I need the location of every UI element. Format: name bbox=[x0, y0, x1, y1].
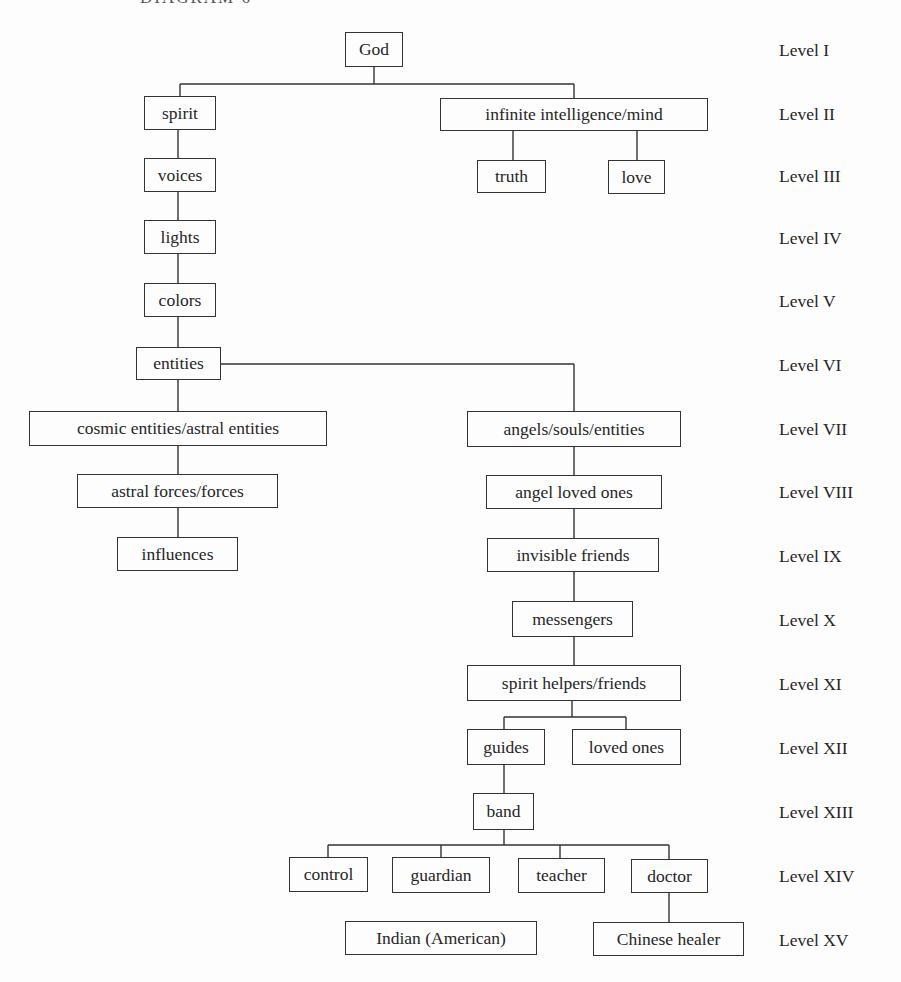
node-angels-souls: angels/souls/entities bbox=[467, 411, 681, 447]
level-label-7: Level VII bbox=[779, 419, 847, 440]
node-chinese-healer: Chinese healer bbox=[593, 922, 744, 956]
node-colors: colors bbox=[144, 283, 216, 317]
node-infinite-intelligence: infinite intelligence/mind bbox=[440, 98, 708, 131]
node-truth: truth bbox=[477, 160, 546, 193]
node-indian-american: Indian (American) bbox=[345, 921, 537, 955]
node-guides: guides bbox=[467, 729, 545, 765]
node-god: God bbox=[345, 32, 403, 67]
node-angel-loved-ones: angel loved ones bbox=[486, 475, 662, 509]
node-lights: lights bbox=[144, 220, 216, 254]
level-label-15: Level XV bbox=[779, 930, 849, 951]
node-loved-ones: loved ones bbox=[572, 729, 681, 765]
node-guardian: guardian bbox=[392, 857, 490, 893]
level-label-6: Level VI bbox=[779, 355, 841, 376]
level-label-3: Level III bbox=[779, 166, 841, 187]
node-love: love bbox=[608, 160, 665, 194]
node-astral-forces: astral forces/forces bbox=[77, 474, 278, 508]
level-label-13: Level XIII bbox=[779, 802, 853, 823]
level-label-10: Level X bbox=[779, 610, 836, 631]
level-label-9: Level IX bbox=[779, 546, 842, 567]
node-spirit-helpers: spirit helpers/friends bbox=[467, 665, 681, 701]
node-messengers: messengers bbox=[512, 601, 633, 637]
level-label-2: Level II bbox=[779, 104, 835, 125]
level-label-11: Level XI bbox=[779, 674, 842, 695]
node-spirit: spirit bbox=[144, 96, 216, 130]
node-voices: voices bbox=[144, 158, 216, 192]
level-label-1: Level I bbox=[779, 40, 829, 61]
node-control: control bbox=[289, 857, 368, 892]
level-label-8: Level VIII bbox=[779, 482, 853, 503]
node-doctor: doctor bbox=[631, 859, 708, 893]
level-label-12: Level XII bbox=[779, 738, 848, 759]
node-entities: entities bbox=[136, 347, 221, 380]
level-label-5: Level V bbox=[779, 291, 836, 312]
node-cosmic-entities: cosmic entities/astral entities bbox=[29, 411, 327, 446]
node-teacher: teacher bbox=[518, 858, 605, 893]
level-label-4: Level IV bbox=[779, 228, 842, 249]
level-label-14: Level XIV bbox=[779, 866, 854, 887]
node-band: band bbox=[473, 793, 534, 830]
node-invisible-friends: invisible friends bbox=[487, 538, 659, 572]
node-influences: influences bbox=[117, 537, 238, 571]
